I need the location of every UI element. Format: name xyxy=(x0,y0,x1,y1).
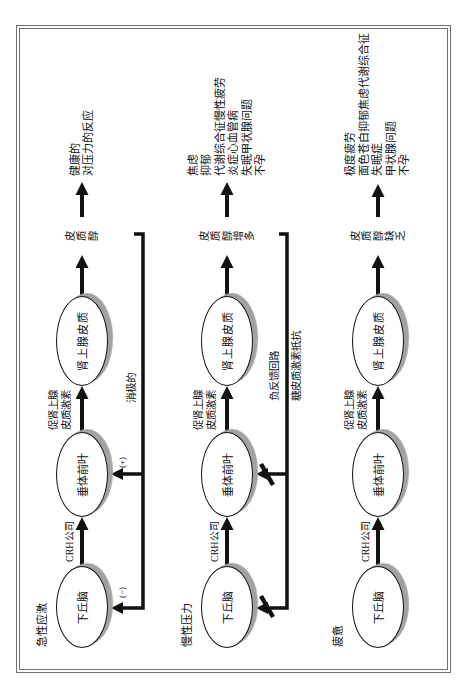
acth-label-line-1: 促肾上腺 xyxy=(343,390,356,430)
feedback-line xyxy=(122,234,143,608)
arrowhead-icon xyxy=(372,386,385,399)
row-label: 疲惫 xyxy=(332,625,344,647)
crh-label: CRH公司 xyxy=(64,521,75,562)
arrowhead-icon xyxy=(221,517,234,530)
feedback-label-above: 负反馈回路 xyxy=(269,351,281,401)
cortisol-text: 皮质醇缺乏 xyxy=(350,230,407,245)
arrowhead-icon xyxy=(76,255,89,268)
hypothalamus-sign: (−) xyxy=(117,587,127,598)
row-acute-stress: 急性应激 下丘脑 垂体前叶 肾上腺皮质 CRH公司 促肾上腺 皮质激素 皮质醇 … xyxy=(16,25,158,673)
outcome-item: 失眠症 xyxy=(371,33,385,176)
arrowhead-icon xyxy=(372,255,385,268)
node-anterior-pituitary: 垂体前叶 xyxy=(201,432,253,517)
arrowhead-icon xyxy=(76,182,89,195)
feedback-line xyxy=(267,234,287,608)
acth-label: 促肾上腺 皮质激素 xyxy=(192,390,218,430)
acth-label: 促肾上腺 皮质激素 xyxy=(47,390,73,430)
node-hypothalamus: 下丘脑 xyxy=(56,566,108,648)
feedback-arrowhead-hypothalamus-icon xyxy=(111,602,123,614)
feedback-label: 消极的 xyxy=(126,373,138,403)
cortisol-label: 皮质醇增多 xyxy=(161,230,293,244)
crh-label: CRH公司 xyxy=(360,521,371,562)
outcome-item: 失眠甲状腺问题 xyxy=(241,77,255,176)
node-hypothalamus: 下丘脑 xyxy=(201,566,253,648)
hpa-axis-diagram: 急性应激 下丘脑 垂体前叶 肾上腺皮质 CRH公司 促肾上腺 皮质激素 皮质醇 … xyxy=(16,25,451,673)
outcome-item: 代谢综合征慢性疲劳 xyxy=(214,77,228,176)
outcome-item: 极度疲劳 xyxy=(344,33,358,176)
arrowhead-icon xyxy=(372,517,385,530)
acth-label: 促肾上腺 皮质激素 xyxy=(343,390,369,430)
node-adrenal-cortex: 肾上腺皮质 xyxy=(352,296,404,386)
outcome-item: 焦虑 xyxy=(187,77,201,176)
acth-label-line-1: 促肾上腺 xyxy=(47,390,60,430)
node-label: 肾上腺皮质 xyxy=(219,311,235,371)
outcome-item: 不孕 xyxy=(398,33,412,176)
node-label: 肾上腺皮质 xyxy=(370,311,386,371)
row-chronic-stress: 慢性压力 下丘脑 垂体前叶 肾上腺皮质 CRH公司 促肾上腺 皮质激素 皮质醇增… xyxy=(161,25,303,673)
node-label: 下丘脑 xyxy=(219,591,235,624)
pituitary-sign: (+) xyxy=(117,457,127,468)
acth-label-line-2: 皮质激素 xyxy=(60,390,73,430)
node-label: 垂体前叶 xyxy=(370,453,386,497)
node-hypothalamus: 下丘脑 xyxy=(352,566,404,648)
node-label: 垂体前叶 xyxy=(219,453,235,497)
feedback-label-below: 糖皮质激素抵抗 xyxy=(291,331,303,401)
arrowhead-icon xyxy=(76,517,89,530)
node-label: 肾上腺皮质 xyxy=(74,311,90,371)
acth-label-line-2: 皮质激素 xyxy=(205,390,218,430)
node-label: 下丘脑 xyxy=(370,591,386,624)
arrowhead-icon xyxy=(221,182,234,195)
crh-label: CRH公司 xyxy=(209,521,220,562)
outcome-item: 不孕 xyxy=(254,77,268,176)
cortisol-label: 皮质醇 xyxy=(16,230,148,244)
acth-label-line-2: 皮质激素 xyxy=(356,390,369,430)
row-exhaustion: 疲惫 下丘脑 垂体前叶 肾上腺皮质 CRH公司 促肾上腺 皮质激素 皮质醇缺乏 … xyxy=(312,25,454,673)
node-label: 下丘脑 xyxy=(74,591,90,624)
node-adrenal-cortex: 肾上腺皮质 xyxy=(201,296,253,386)
cortisol-label: 皮质醇缺乏 xyxy=(312,230,444,244)
outcome-list: 焦虑 抑郁 代谢综合征慢性疲劳 炎症心血管病 失眠甲状腺问题 不孕 xyxy=(161,77,293,176)
outcome-item: 炎症心血管病 xyxy=(227,77,241,176)
node-label: 垂体前叶 xyxy=(74,453,90,497)
arrowhead-icon xyxy=(76,386,89,399)
outcome-item: 面色苍白抑郁焦虑代谢综合征 xyxy=(358,33,372,176)
outcome-list: 健康的 对压力的反应 xyxy=(16,110,148,176)
acth-label-line-1: 促肾上腺 xyxy=(192,390,205,430)
node-anterior-pituitary: 垂体前叶 xyxy=(352,432,404,517)
arrowhead-icon xyxy=(221,386,234,399)
cortisol-text: 皮质醇 xyxy=(65,230,99,245)
arrowhead-icon xyxy=(372,184,385,197)
node-adrenal-cortex: 肾上腺皮质 xyxy=(56,296,108,386)
outcome-item: 抑郁 xyxy=(200,77,214,176)
row-label: 急性应激 xyxy=(36,603,48,647)
outcome-item: 对压力的反应 xyxy=(82,110,96,176)
outcome-list: 极度疲劳 面色苍白抑郁焦虑代谢综合征 失眠症 甲状腺问题 不孕 xyxy=(312,33,444,176)
feedback-arrowhead-pituitary-icon xyxy=(111,468,123,480)
arrowhead-icon xyxy=(221,255,234,268)
outcome-item: 甲状腺问题 xyxy=(385,33,399,176)
cortisol-text: 皮质醇增多 xyxy=(199,230,256,245)
row-label: 慢性压力 xyxy=(181,603,193,647)
outcome-item: 健康的 xyxy=(69,110,83,176)
node-anterior-pituitary: 垂体前叶 xyxy=(56,432,108,517)
